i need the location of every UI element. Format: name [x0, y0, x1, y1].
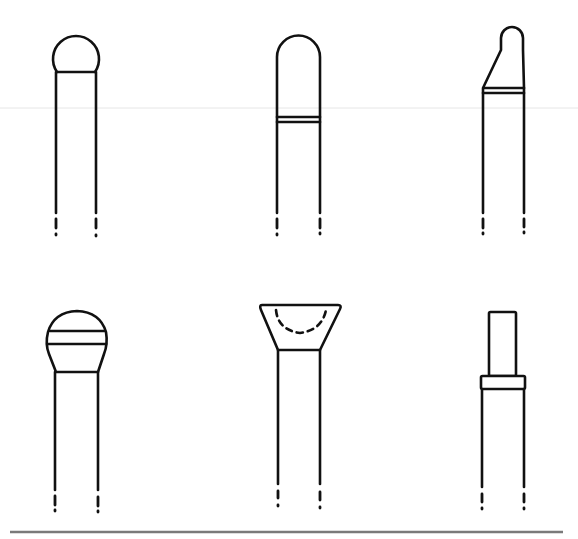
shape-post-collar-tip: [481, 312, 525, 509]
shape-round-ball-tip: [53, 36, 99, 236]
cup-outline: [260, 305, 340, 350]
tip-shapes-diagram: [0, 0, 578, 539]
cup-inner-dashed-curve: [276, 310, 326, 333]
ball-head: [53, 36, 99, 72]
bullet-outline: [277, 36, 320, 213]
dome-outline: [47, 311, 107, 372]
shape-tapered-tip: [483, 27, 524, 234]
collar: [481, 376, 525, 389]
shape-bullet-nose-tip: [277, 36, 320, 235]
post: [489, 312, 516, 376]
shape-cup-tip: [260, 305, 340, 508]
taper-outline: [483, 27, 524, 213]
shape-banded-dome-tip: [47, 311, 107, 512]
